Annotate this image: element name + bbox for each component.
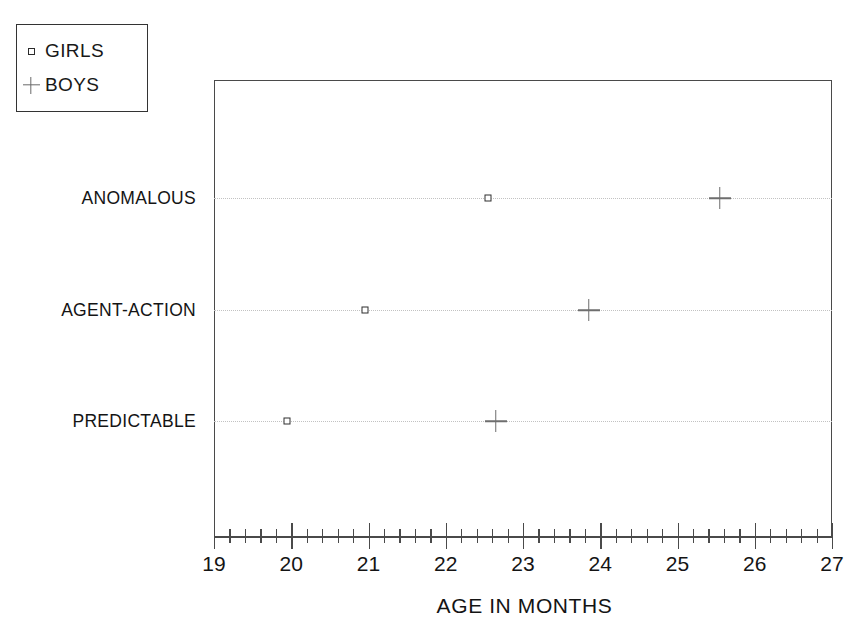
x-tick-major-22 [446,536,447,549]
x-tick-minor [739,536,740,543]
x-tick-minor-up [662,529,663,536]
data-point-boys-predictable [485,410,507,432]
x-tick-minor [554,536,555,543]
x-tick-major-up-22 [446,523,447,536]
x-tick-minor [430,536,431,543]
x-tick-label-24: 24 [589,552,612,576]
x-tick-major-19 [214,536,215,549]
x-tick-label-27: 27 [820,552,843,576]
data-point-girls-anomalous [485,195,492,202]
x-tick-label-21: 21 [357,552,380,576]
x-tick-major-up-26 [755,523,756,536]
x-tick-minor [801,536,802,543]
x-tick-major-20 [291,536,292,549]
x-tick-minor-up [647,529,648,536]
x-tick-minor [322,536,323,543]
x-tick-major-up-23 [523,523,524,536]
x-tick-minor-up [786,529,787,536]
x-tick-minor-up [477,529,478,536]
x-tick-major-21 [369,536,370,549]
x-tick-minor-up [817,529,818,536]
x-tick-minor-up [770,529,771,536]
x-tick-minor [616,536,617,543]
x-tick-label-26: 26 [743,552,766,576]
x-axis-title-text: AGE IN MONTHS [437,594,613,618]
x-tick-major-up-27 [832,523,833,536]
x-tick-major-up-19 [214,523,215,536]
x-tick-minor-up [260,529,261,536]
category-label-anomalous: ANOMALOUS [81,188,196,209]
gridline-predictable [214,421,832,423]
x-tick-minor [245,536,246,543]
x-tick-label-20: 20 [280,552,303,576]
x-tick-minor [508,536,509,543]
x-tick-minor [786,536,787,543]
x-tick-major-25 [678,536,679,549]
x-axis: 192021222324252627 [214,536,832,537]
x-tick-minor [569,536,570,543]
x-tick-minor-up [569,529,570,536]
x-tick-minor [477,536,478,543]
x-tick-minor-up [307,529,308,536]
data-point-girls-agent-action [361,307,368,314]
x-tick-major-up-24 [600,523,601,536]
x-tick-minor [415,536,416,543]
x-tick-minor [585,536,586,543]
x-tick-minor-up [430,529,431,536]
x-tick-minor [631,536,632,543]
x-tick-minor-up [708,529,709,536]
x-tick-minor [353,536,354,543]
gridline-agent-action [214,310,832,312]
x-tick-minor-up [415,529,416,536]
x-tick-minor-up [538,529,539,536]
x-tick-minor-up [399,529,400,536]
x-tick-minor [724,536,725,543]
x-tick-minor-up [492,529,493,536]
category-label-predictable: PREDICTABLE [72,411,196,432]
x-tick-label-25: 25 [666,552,689,576]
x-tick-minor [260,536,261,543]
x-tick-minor-up [322,529,323,536]
x-tick-minor-up [229,529,230,536]
x-tick-minor [338,536,339,543]
x-tick-minor [461,536,462,543]
x-tick-minor-up [693,529,694,536]
x-tick-label-23: 23 [511,552,534,576]
x-tick-minor [492,536,493,543]
x-tick-minor-up [276,529,277,536]
x-tick-minor-up [554,529,555,536]
x-tick-minor [708,536,709,543]
x-tick-major-26 [755,536,756,549]
x-tick-minor [307,536,308,543]
x-tick-minor [693,536,694,543]
x-tick-major-27 [832,536,833,549]
x-tick-minor-up [384,529,385,536]
gridline-anomalous [214,198,832,200]
plot-area [214,80,832,537]
x-tick-label-19: 19 [202,552,225,576]
x-tick-major-up-20 [291,523,292,536]
x-tick-minor [399,536,400,543]
x-tick-label-22: 22 [434,552,457,576]
x-tick-major-up-21 [369,523,370,536]
x-tick-minor-up [801,529,802,536]
x-axis-title: AGE IN MONTHS [0,594,855,618]
x-tick-minor-up [616,529,617,536]
category-label-agent-action: AGENT-ACTION [61,300,196,321]
data-point-girls-predictable [284,418,291,425]
x-tick-major-24 [600,536,601,549]
x-tick-major-23 [523,536,524,549]
x-tick-minor [770,536,771,543]
x-tick-minor-up [724,529,725,536]
x-tick-minor [384,536,385,543]
x-tick-minor-up [631,529,632,536]
x-tick-minor [276,536,277,543]
x-tick-minor-up [739,529,740,536]
x-tick-minor-up [508,529,509,536]
x-tick-major-up-25 [678,523,679,536]
x-tick-minor-up [353,529,354,536]
x-tick-minor [229,536,230,543]
x-tick-minor [538,536,539,543]
x-tick-minor-up [338,529,339,536]
x-tick-minor [817,536,818,543]
